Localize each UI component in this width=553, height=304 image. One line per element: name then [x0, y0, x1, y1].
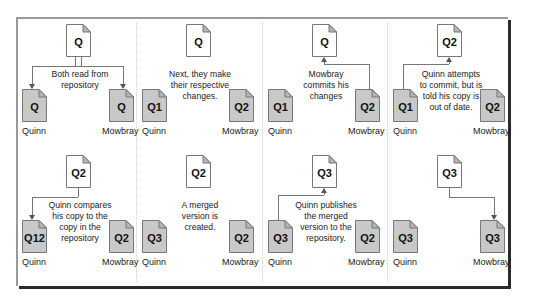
quinn-name-label: Quinn: [22, 257, 46, 267]
mowbray-version-label: Q2: [229, 232, 254, 244]
connector-line: [369, 64, 370, 89]
step-panel-3: QQ1Q2QuinnMowbrayMowbray commits his cha…: [264, 21, 387, 153]
mowbray-name-label: Mowbray: [222, 257, 259, 267]
connector-line: [449, 197, 494, 198]
quinn-version-label: Q3: [142, 232, 167, 244]
connector-line: [32, 66, 123, 67]
arrow-up-icon: [321, 188, 327, 193]
mowbray-version-label: Q3: [480, 232, 505, 244]
arrow-down-icon: [491, 215, 497, 220]
mowbray-version-label: Q2: [355, 101, 380, 113]
arrow-down-icon: [29, 84, 35, 89]
repository-document-icon: Q2: [66, 155, 91, 188]
quinn-version-label: Q3: [393, 232, 418, 244]
connector-line: [75, 57, 76, 66]
connector-line: [278, 195, 279, 220]
step-caption: Mowbray commits his changes: [286, 69, 366, 102]
repository-version-label: Q: [66, 36, 91, 48]
quinn-working-copy-icon: Q3: [393, 220, 418, 253]
mowbray-version-label: Q2: [229, 101, 254, 113]
connector-line: [324, 64, 369, 65]
mowbray-name-label: Mowbray: [473, 257, 510, 267]
step-caption: Quinn compares his copy to the copy in t…: [40, 200, 120, 244]
step-caption: Quinn publishes the merged version to th…: [286, 200, 366, 244]
connector-line: [403, 64, 404, 89]
repository-version-label: Q3: [312, 167, 337, 179]
mowbray-name-label: Mowbray: [102, 257, 139, 267]
connector-line: [32, 66, 33, 84]
quinn-version-label: Q1: [142, 101, 167, 113]
step-caption: Both read from repository: [40, 69, 120, 91]
quinn-name-label: Quinn: [268, 126, 292, 136]
repository-document-icon: Q2: [437, 24, 462, 57]
step-caption: Quinn attempts to commit, but is told hi…: [411, 69, 491, 113]
mowbray-name-label: Mowbray: [222, 126, 259, 136]
mowbray-name-label: Mowbray: [473, 126, 510, 136]
mowbray-working-copy-icon: Q: [109, 89, 134, 122]
connector-line: [123, 66, 124, 84]
mowbray-name-label: Mowbray: [348, 126, 385, 136]
repository-version-label: Q3: [437, 167, 462, 179]
quinn-name-label: Quinn: [22, 126, 46, 136]
connector-line: [403, 64, 449, 65]
quinn-version-label: Q: [22, 101, 47, 113]
mowbray-working-copy-icon: Q3: [480, 220, 505, 253]
quinn-working-copy-icon: Q: [22, 89, 47, 122]
step-caption: Next, they make their respective changes…: [160, 69, 240, 102]
mowbray-name-label: Mowbray: [348, 257, 385, 267]
panel-divider: [262, 23, 263, 282]
connector-line: [32, 197, 33, 215]
quinn-name-label: Quinn: [268, 257, 292, 267]
arrow-down-icon: [29, 215, 35, 220]
quinn-name-label: Quinn: [393, 257, 417, 267]
repository-version-label: Q2: [186, 167, 211, 179]
step-panel-7: Q3Q3Q2QuinnMowbrayQuinn publishes the me…: [264, 152, 387, 284]
step-panel-8: Q3Q3Q3QuinnMowbray: [389, 152, 512, 284]
step-caption: A merged version is created.: [160, 200, 240, 233]
step-panel-5: Q2Q12Q2QuinnMowbrayQuinn compares his co…: [18, 152, 141, 284]
connector-line: [278, 195, 324, 196]
arrow-down-icon: [120, 84, 126, 89]
arrow-up-icon: [446, 57, 452, 62]
connector-line: [494, 197, 495, 215]
repository-version-label: Q2: [66, 167, 91, 179]
panel-divider: [387, 23, 388, 282]
arrow-up-icon: [321, 57, 327, 62]
quinn-name-label: Quinn: [393, 126, 417, 136]
repository-document-icon: Q2: [186, 155, 211, 188]
step-panel-6: Q2Q3Q2QuinnMowbrayA merged version is cr…: [138, 152, 261, 284]
mowbray-version-label: Q: [109, 101, 134, 113]
step-panel-4: Q2Q1Q2QuinnMowbrayQuinn attempts to comm…: [389, 21, 512, 153]
diagram-frame: QQQQuinnMowbrayBoth read from repository…: [16, 17, 508, 286]
mowbray-name-label: Mowbray: [102, 126, 139, 136]
repository-version-label: Q: [312, 36, 337, 48]
connector-line: [449, 188, 450, 197]
quinn-name-label: Quinn: [142, 126, 166, 136]
repository-version-label: Q2: [437, 36, 462, 48]
connector-line: [81, 57, 82, 66]
repository-document-icon: Q: [312, 24, 337, 57]
repository-document-icon: Q: [66, 24, 91, 57]
repository-version-label: Q: [186, 36, 211, 48]
connector-line: [32, 197, 78, 198]
repository-document-icon: Q: [186, 24, 211, 57]
connector-line: [78, 188, 79, 197]
quinn-version-label: Q1: [268, 101, 293, 113]
step-panel-1: QQQQuinnMowbrayBoth read from repository: [18, 21, 141, 153]
repository-document-icon: Q3: [437, 155, 462, 188]
quinn-name-label: Quinn: [142, 257, 166, 267]
step-panel-2: QQ1Q2QuinnMowbrayNext, they make their r…: [138, 21, 261, 153]
repository-document-icon: Q3: [312, 155, 337, 188]
